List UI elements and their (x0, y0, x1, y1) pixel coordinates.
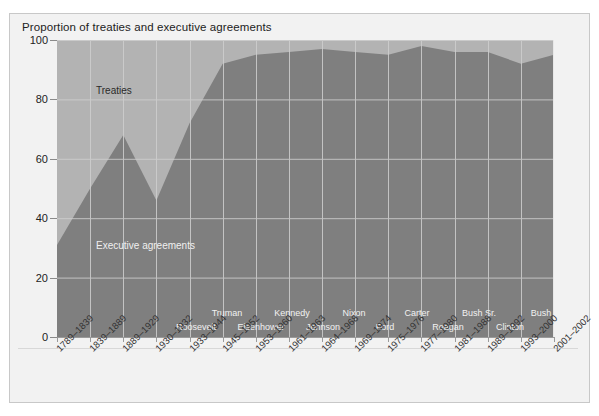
y-tick-label-40: 40 (22, 212, 48, 224)
y-tick-label-0: 0 (22, 331, 48, 343)
chart-title: Proportion of treaties and executive agr… (22, 21, 272, 33)
president-label-kennedy: Kennedy (262, 308, 322, 318)
annotation-treaties: Treaties (96, 85, 132, 96)
chart-page: Proportion of treaties and executive agr… (0, 0, 599, 416)
y-tick-label-100: 100 (22, 34, 48, 46)
y-tick-label-60: 60 (22, 153, 48, 165)
plot-area: Treaties Executive agreements (57, 40, 554, 337)
annotation-executive-agreements: Executive agreements (96, 240, 195, 251)
y-tick-label-20: 20 (22, 272, 48, 284)
president-label-bush-sr: Bush Sr. (449, 308, 509, 318)
y-tick-label-80: 80 (22, 93, 48, 105)
